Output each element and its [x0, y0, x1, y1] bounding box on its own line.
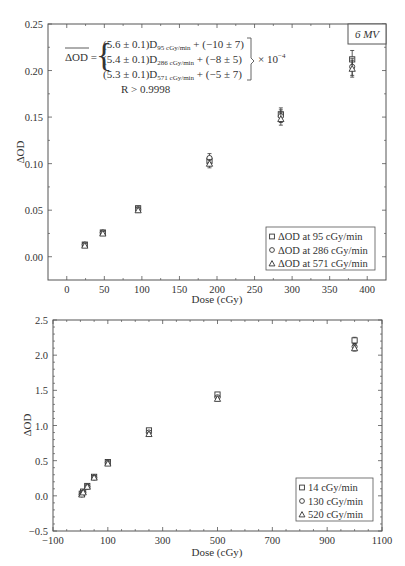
top-legend-items: ΔOD at 95 cGy/minΔOD at 286 cGy/minΔOD a… [269, 231, 369, 269]
y-tick-label: −0.5 [29, 526, 48, 537]
x-tick-label: 300 [284, 284, 300, 295]
circle-marker [300, 499, 305, 504]
y-tick-label: 0.20 [25, 66, 43, 77]
legend-entry: ΔOD at 571 cGy/min [278, 258, 369, 269]
x-tick-label: 400 [359, 284, 375, 295]
legend-entry: ΔOD at 95 cGy/min [278, 231, 363, 242]
right-brace [247, 38, 254, 80]
y-tick-label: 0.0 [35, 491, 48, 502]
bottom-data-points [79, 337, 358, 497]
equation-scale: × 10−4 [258, 52, 286, 65]
top-chart: 0501001502002503003504000.000.050.100.15… [14, 19, 386, 306]
y-tick-label: 0.10 [25, 159, 43, 170]
equation-lhs: ΔOD = [65, 51, 97, 63]
x-tick-label: 150 [172, 284, 188, 295]
x-tick-label: 350 [322, 284, 338, 295]
y-tick-label: 1.5 [35, 385, 48, 396]
square-marker [300, 485, 305, 490]
y-tick-label: 0.25 [25, 19, 43, 30]
y-tick-label: 0.5 [35, 456, 48, 467]
legend-entry: 14 cGy/min [308, 482, 359, 493]
y-tick-label: 2.0 [35, 350, 48, 361]
circle-marker [270, 248, 275, 253]
equation-line-1: (5.6 ± 0.1)D95 cGy/min + (−10 ± 7) [103, 38, 244, 52]
beam-energy-label: 6 MV [355, 28, 380, 40]
top-x-axis-label: Dose (cGy) [191, 293, 242, 306]
correlation-r: R > 0.9998 [121, 83, 171, 95]
y-tick-label: 0.05 [25, 205, 43, 216]
x-tick-label: 1100 [372, 535, 393, 546]
bottom-x-axis-label: Dose (cGy) [191, 546, 242, 559]
legend-entry: 130 cGy/min [308, 496, 364, 507]
y-tick-label: 0.15 [25, 112, 43, 123]
y-tick-label: 2.5 [35, 315, 48, 326]
x-tick-label: 100 [134, 284, 150, 295]
equation-line-3: (5.3 ± 0.1)D571 cGy/min + (−5 ± 7) [103, 68, 242, 82]
y-tick-label: 1.0 [35, 421, 48, 432]
square-marker [270, 234, 275, 239]
legend-entry: ΔOD at 286 cGy/min [278, 245, 369, 256]
fit-equation: ΔOD = { (5.6 ± 0.1)D95 cGy/min + (−10 ± … [65, 36, 286, 95]
top-y-axis-label: ΔOD [14, 140, 26, 163]
x-tick-label: 700 [264, 535, 280, 546]
x-tick-label: 250 [247, 284, 263, 295]
x-tick-label: 900 [319, 535, 335, 546]
top-data-points [82, 50, 356, 248]
x-tick-label: 100 [100, 535, 116, 546]
x-tick-label: 0 [64, 284, 69, 295]
x-tick-label: 500 [210, 535, 226, 546]
square-marker [352, 338, 357, 343]
bottom-chart: −1001003005007009001100−0.50.00.51.01.52… [21, 315, 392, 559]
legend-entry: 520 cGy/min [308, 509, 364, 520]
x-tick-label: 300 [155, 535, 171, 546]
figure: 0501001502002503003504000.000.050.100.15… [0, 0, 405, 566]
equation-line-2: (5.4 ± 0.1)D286 cGy/min + (−8 ± 5) [103, 53, 242, 67]
y-tick-label: 0.00 [25, 252, 43, 263]
bottom-y-axis-label: ΔOD [21, 413, 33, 436]
bottom-legend-items: 14 cGy/min130 cGy/min520 cGy/min [299, 482, 364, 520]
x-tick-label: 50 [99, 284, 110, 295]
